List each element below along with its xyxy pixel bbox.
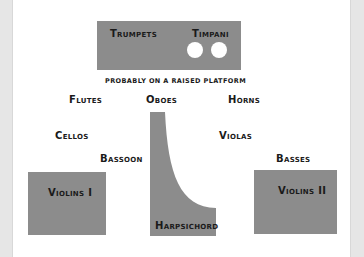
harpsichord-label: Harpsichord <box>155 221 218 231</box>
